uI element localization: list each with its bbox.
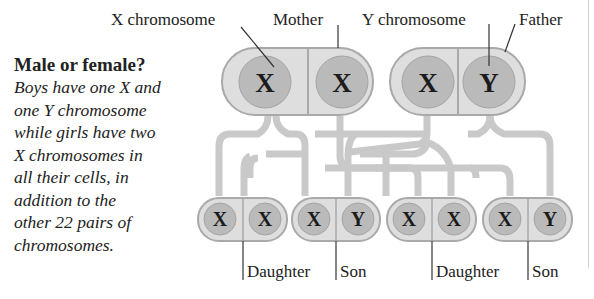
child-cell-son-2 [483,198,572,241]
child-cell-son-1 [292,198,380,241]
daughter2-chromosome-1: X [402,208,417,230]
child-label-daughter-2: Daughter [436,262,499,282]
father-chromosome-2: Y [479,68,499,98]
mother-chromosome-2: X [332,68,352,98]
child-label-daughter-1: Daughter [247,262,310,282]
right-border-rule [588,0,589,268]
daughter2-chromosome-2: X [447,208,462,230]
child-cell-daughter-1 [198,198,287,241]
mother-label: Mother [273,10,323,30]
child-label-son-2: Son [532,262,558,282]
son2-chromosome-2: Y [543,208,558,230]
child-cell-daughter-2 [387,198,476,241]
daughter1-chromosome-2: X [258,208,273,230]
son2-chromosome-1: X [498,208,513,230]
son1-chromosome-2: Y [351,208,366,230]
x-chromosome-label: X chromosome [111,10,215,30]
inheritance-lines [219,116,550,196]
father-label: Father [519,10,562,30]
mother-chromosome-1: X [255,68,275,98]
child-label-son-1: Son [340,262,366,282]
y-chromosome-label: Y chromosome [362,10,466,30]
inheritance-diagram: X X X Y X X X Y X X X Y [0,0,594,299]
father-cell [390,48,525,115]
daughter1-chromosome-1: X [213,208,228,230]
son1-chromosome-1: X [307,208,322,230]
father-chromosome-1: X [418,68,438,98]
